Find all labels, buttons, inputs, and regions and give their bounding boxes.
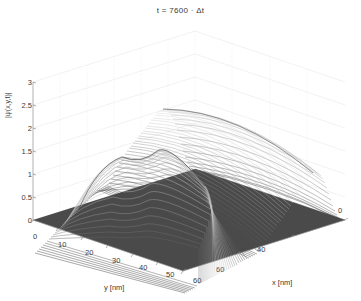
surface-canvas xyxy=(0,0,361,301)
mesh-surface xyxy=(33,109,345,293)
figure-3d-surface-plot: t = 7600 · Δt 3 2.5 2 1.5 1 0.5 0 |ψ(x,y… xyxy=(0,0,361,301)
z-axis xyxy=(33,82,36,221)
